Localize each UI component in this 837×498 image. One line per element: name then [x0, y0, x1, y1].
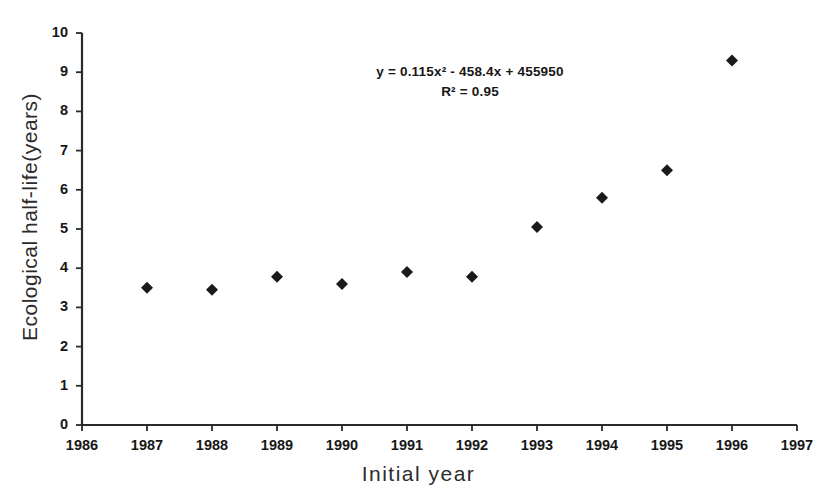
x-tick-label: 1991 — [377, 437, 437, 453]
x-tick-label: 1997 — [767, 437, 827, 453]
chart-figure: Ecological half-life(years) Initial year… — [0, 0, 837, 498]
y-tick-label: 4 — [34, 259, 68, 275]
data-point-marker — [271, 271, 283, 283]
x-tick-label: 1994 — [572, 437, 632, 453]
x-tick-label: 1993 — [507, 437, 567, 453]
r-squared-text: R² = 0.95 — [330, 82, 610, 102]
y-tick-label: 2 — [34, 338, 68, 354]
y-tick-label: 1 — [34, 377, 68, 393]
x-tick-label: 1996 — [702, 437, 762, 453]
data-point-marker — [336, 278, 348, 290]
x-tick-label: 1990 — [312, 437, 372, 453]
trendline-equation-annotation: y = 0.115x² - 458.4x + 455950 R² = 0.95 — [330, 62, 610, 102]
x-tick-label: 1989 — [247, 437, 307, 453]
data-point-marker — [596, 192, 608, 204]
y-tick-label: 10 — [34, 24, 68, 40]
x-tick-label: 1995 — [637, 437, 697, 453]
y-tick-label: 0 — [34, 416, 68, 432]
data-point-marker — [141, 282, 153, 294]
data-point-marker — [661, 164, 673, 176]
x-tick-label: 1987 — [117, 437, 177, 453]
x-tick-label: 1986 — [52, 437, 112, 453]
data-point-marker — [206, 284, 218, 296]
y-tick-label: 5 — [34, 220, 68, 236]
x-tick-label: 1988 — [182, 437, 242, 453]
y-tick-label: 8 — [34, 102, 68, 118]
y-tick-label: 3 — [34, 298, 68, 314]
y-tick-label: 7 — [34, 142, 68, 158]
y-tick-label: 6 — [34, 181, 68, 197]
x-axis-title: Initial year — [0, 462, 837, 486]
y-tick-label: 9 — [34, 63, 68, 79]
trendline-equation-text: y = 0.115x² - 458.4x + 455950 — [330, 62, 610, 82]
data-point-marker — [531, 221, 543, 233]
data-point-marker — [726, 54, 738, 66]
x-tick-label: 1992 — [442, 437, 502, 453]
data-point-marker — [466, 271, 478, 283]
data-point-marker — [401, 266, 413, 278]
